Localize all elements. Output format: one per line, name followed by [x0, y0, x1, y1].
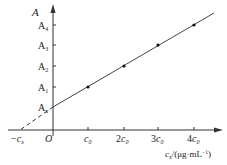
x-axis-arrow-icon — [214, 128, 223, 133]
data-point-c0 — [86, 85, 89, 88]
y-tick-A4: A4 — [38, 20, 48, 32]
x-tick-3c0: 3c0 — [151, 133, 163, 145]
x-tick-2c0: 2c0 — [116, 133, 128, 145]
x-axis-title: cx/(μg·mL−1) — [165, 149, 211, 160]
x-tick-4c0: 4c0 — [187, 133, 199, 145]
y-tick-A2: A2 — [38, 61, 48, 73]
standard-addition-chart: A A4 A3 A2 A1 Ax −cx O c0 2c0 3c0 4c0 cx… — [0, 0, 227, 165]
y-axis-title: A — [31, 6, 39, 18]
data-point-4c0 — [192, 23, 195, 26]
y-tick-A3: A3 — [38, 40, 48, 52]
data-point-3c0 — [156, 43, 159, 46]
x-tick-c0: c0 — [84, 133, 91, 145]
fit-line — [53, 13, 214, 107]
y-axis-arrow-icon — [51, 4, 56, 13]
x-tick-neg-cx: −cx — [10, 133, 24, 145]
x-tick-origin: O — [45, 133, 52, 144]
y-tick-A1: A1 — [38, 82, 48, 94]
data-point-2c0 — [122, 64, 125, 67]
y-tick-Ax: Ax — [38, 102, 48, 114]
